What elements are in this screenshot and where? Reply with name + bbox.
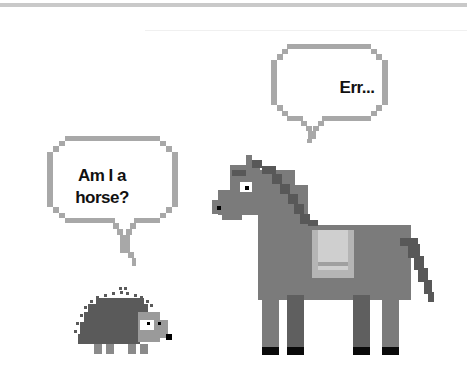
hedgehog-speech-line1: Am I a xyxy=(62,165,142,187)
horse xyxy=(212,155,434,355)
horse-speech-text: Err... xyxy=(322,77,392,99)
hedgehog xyxy=(74,287,172,354)
hedgehog-speech-line2: horse? xyxy=(62,187,142,209)
hedgehog-speech-text: Am I a horse? xyxy=(62,165,142,209)
